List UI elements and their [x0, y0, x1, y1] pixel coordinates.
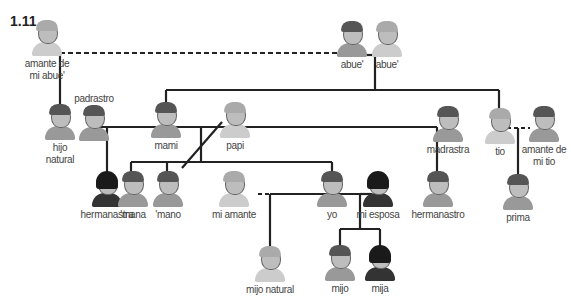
person-padrastro: padrastro	[64, 93, 124, 141]
person-papi: papi	[205, 104, 265, 152]
portrait-icon	[30, 22, 64, 56]
portrait-icon	[253, 248, 287, 282]
portrait-icon	[370, 23, 404, 57]
person-madrastra: madrastra	[418, 108, 478, 156]
person-hermanastro: hermanastro	[408, 173, 468, 221]
portrait-icon	[361, 173, 395, 207]
person-mi-esposa: mi esposa	[348, 173, 408, 221]
person-mi-amante: mi amante	[204, 173, 264, 221]
portrait-icon	[151, 173, 185, 207]
portrait-icon	[363, 247, 397, 281]
person-mami: mami	[136, 104, 196, 152]
portrait-icon	[527, 108, 561, 142]
portrait-icon	[77, 107, 111, 141]
person-abuela: abue'	[357, 23, 417, 71]
person-amante-abue: amante de mi abue'	[17, 22, 77, 82]
portrait-icon	[483, 110, 517, 144]
person-mija: mija	[350, 247, 410, 295]
person-amante-tio: amante de mi tio	[517, 108, 571, 168]
portrait-icon	[431, 108, 465, 142]
person-mijo-natural: mijo natural	[240, 248, 300, 296]
portrait-icon	[217, 173, 251, 207]
portrait-icon	[421, 173, 455, 207]
portrait-icon	[218, 104, 252, 138]
portrait-icon	[315, 173, 349, 207]
person-mano: 'mano	[138, 173, 198, 221]
portrait-icon	[149, 104, 183, 138]
person-prima: prima	[488, 176, 548, 224]
portrait-icon	[501, 176, 535, 210]
